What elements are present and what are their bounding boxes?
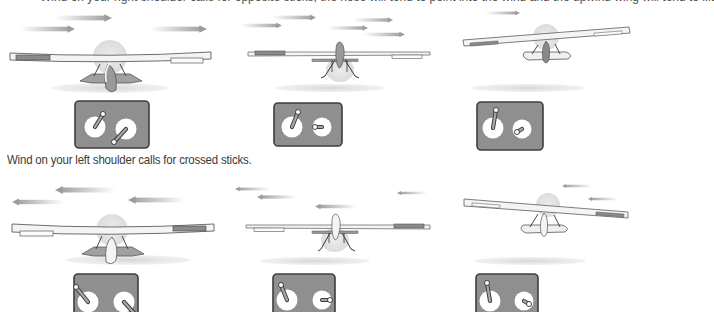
transmitter-bottom-left [74, 274, 139, 312]
top-caption-cropped: Wind on your right shoulder calls for op… [40, 0, 714, 4]
airplane-bottom-center [246, 214, 430, 265]
transmitter-top-left [75, 101, 149, 148]
airplane-top-center [248, 42, 430, 92]
wind-arrows-top [20, 11, 520, 38]
transmitter-bottom-center [273, 274, 335, 312]
crossed-sticks-caption: Wind on your left shoulder calls for cro… [7, 152, 252, 167]
airplane-top-left [10, 40, 211, 93]
airplane-top-right [463, 24, 630, 92]
transmitter-top-right [477, 102, 543, 150]
transmitter-bottom-right [476, 274, 538, 312]
transmitter-top-center [274, 103, 342, 146]
airplane-bottom-right [464, 193, 628, 265]
airplane-bottom-left [12, 214, 214, 265]
